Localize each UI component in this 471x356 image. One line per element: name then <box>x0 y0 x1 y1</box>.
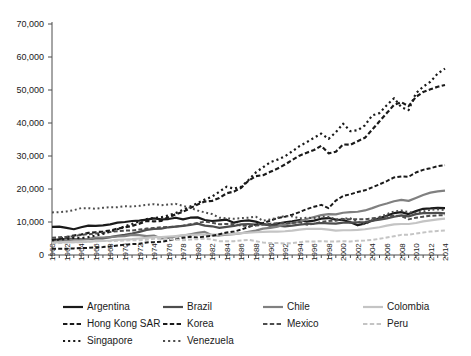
legend-label: Hong Kong SAR <box>87 318 160 329</box>
series-line-colombia <box>52 219 445 243</box>
y-tick-label: 60,000 <box>16 52 44 62</box>
legend-swatch-icon <box>262 319 284 329</box>
x-tick-label: 1976 <box>165 243 174 261</box>
x-tick-label: 1974 <box>150 243 159 261</box>
legend-swatch-icon <box>262 302 284 312</box>
data-series-group <box>52 69 445 249</box>
legend-swatch-icon <box>62 302 84 312</box>
y-tick-label: 20,000 <box>16 184 44 194</box>
legend-label: Mexico <box>287 318 319 329</box>
x-tick-label: 1964 <box>77 243 86 261</box>
y-tick-label: 40,000 <box>16 118 44 128</box>
x-tick-label: 2008 <box>398 243 407 261</box>
x-tick-label: 1992 <box>281 243 290 261</box>
line-chart-svg: 70,00060,00050,00040,00030,00020,00010,0… <box>0 0 471 292</box>
x-tick-label: 2012 <box>427 243 436 261</box>
legend-label: Brazil <box>187 301 212 312</box>
legend-item-peru[interactable]: Peru <box>362 315 462 332</box>
x-tick-label: 1984 <box>223 243 232 261</box>
plot-area: 70,00060,00050,00040,00030,00020,00010,0… <box>0 0 471 292</box>
y-tick-label: 10,000 <box>16 217 44 227</box>
x-tick-label: 2014 <box>441 243 450 261</box>
legend-swatch-icon <box>162 319 184 329</box>
x-tick-label: 1990 <box>267 243 276 261</box>
chart-legend: ArgentinaBrazilChileColombiaHong Kong SA… <box>62 298 462 349</box>
legend-label: Colombia <box>387 301 429 312</box>
x-tick-label: 2002 <box>354 243 363 261</box>
x-tick-label: 1982 <box>208 243 217 261</box>
legend-swatch-icon <box>162 302 184 312</box>
legend-item-brazil[interactable]: Brazil <box>162 298 262 315</box>
legend-label: Chile <box>287 301 310 312</box>
x-tick-label: 1972 <box>136 243 145 261</box>
x-tick-label: 1996 <box>310 243 319 261</box>
x-tick-label: 1962 <box>63 243 72 261</box>
x-tick-label: 2000 <box>339 243 348 261</box>
x-tick-label: 1980 <box>194 243 203 261</box>
x-tick-label: 1960 <box>48 243 57 261</box>
x-tick-label: 2010 <box>412 243 421 261</box>
legend-item-colombia[interactable]: Colombia <box>362 298 462 315</box>
legend-swatch-icon <box>362 302 384 312</box>
y-tick-label: 0 <box>39 250 44 260</box>
legend-label: Argentina <box>87 301 130 312</box>
legend-swatch-icon <box>162 336 184 346</box>
x-tick-label: 1988 <box>252 243 261 261</box>
x-tick-label: 1978 <box>179 243 188 261</box>
legend-swatch-icon <box>62 336 84 346</box>
y-axis-ticks: 70,00060,00050,00040,00030,00020,00010,0… <box>16 19 52 260</box>
legend-item-venezuela[interactable]: Venezuela <box>162 332 262 349</box>
legend-item-chile[interactable]: Chile <box>262 298 362 315</box>
legend-swatch-icon <box>62 319 84 329</box>
legend-label: Venezuela <box>187 335 234 346</box>
legend-swatch-icon <box>362 319 384 329</box>
chart-container: 70,00060,00050,00040,00030,00020,00010,0… <box>0 0 471 356</box>
legend-item-hong-kong-sar[interactable]: Hong Kong SAR <box>62 315 162 332</box>
series-line-singapore <box>52 69 445 241</box>
y-tick-label: 50,000 <box>16 85 44 95</box>
legend-label: Peru <box>387 318 408 329</box>
x-tick-label: 2006 <box>383 243 392 261</box>
x-tick-label: 1966 <box>92 243 101 261</box>
y-tick-label: 70,000 <box>16 19 44 29</box>
x-tick-label: 2004 <box>368 243 377 261</box>
x-tick-label: 1998 <box>325 243 334 261</box>
y-tick-label: 30,000 <box>16 151 44 161</box>
legend-item-argentina[interactable]: Argentina <box>62 298 162 315</box>
legend-item-mexico[interactable]: Mexico <box>262 315 362 332</box>
legend-label: Korea <box>187 318 214 329</box>
legend-item-korea[interactable]: Korea <box>162 315 262 332</box>
legend-label: Singapore <box>87 335 133 346</box>
series-line-venezuela <box>52 204 445 225</box>
x-tick-label: 1986 <box>237 243 246 261</box>
legend-item-singapore[interactable]: Singapore <box>62 332 162 349</box>
x-tick-label: 1994 <box>296 243 305 261</box>
x-axis-ticks: 1960196219641966196819701972197419761978… <box>48 243 450 261</box>
